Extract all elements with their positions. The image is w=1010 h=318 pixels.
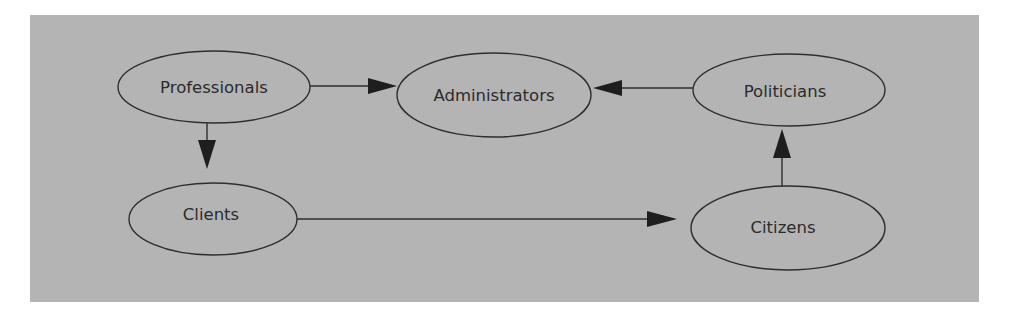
node-professionals[interactable]: Professionals <box>118 51 310 123</box>
node-politicians[interactable]: Politicians <box>693 54 885 126</box>
node-label: Professionals <box>160 78 268 97</box>
node-citizens[interactable]: Citizens <box>691 186 885 270</box>
node-label: Politicians <box>744 82 827 101</box>
diagram-canvas: Professionals Administrators Politicians… <box>0 0 1010 318</box>
node-clients[interactable]: Clients <box>129 183 297 255</box>
node-label: Clients <box>183 205 239 224</box>
node-label: Administrators <box>433 86 554 105</box>
node-administrators[interactable]: Administrators <box>397 53 591 137</box>
node-label: Citizens <box>750 218 815 237</box>
